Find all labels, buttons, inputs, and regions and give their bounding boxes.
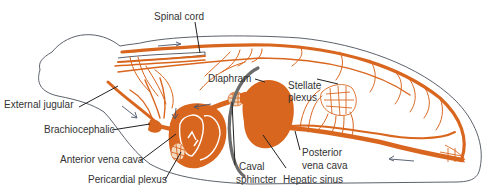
- vessel-branch: [160, 78, 165, 118]
- arrow-right-icon: [158, 42, 181, 46]
- label-spinal-cord: Spinal cord: [154, 11, 204, 22]
- leader-posterior-vena-cava: [295, 131, 300, 150]
- vessel-branch: [252, 49, 262, 62]
- vessel-branch: [155, 70, 173, 108]
- jugular-vessels: [108, 78, 176, 133]
- vessel-branch: [342, 116, 344, 134]
- hepatic-sinus-body: [243, 80, 294, 148]
- label-stellate-plexus-line1: Stellate: [288, 80, 322, 91]
- hepatic-sinus: [240, 80, 294, 148]
- label-stellate-plexus-line2: plexus: [288, 92, 317, 103]
- vessel-branch: [130, 57, 150, 92]
- label-caval-sphincter-line2: sphincter: [236, 174, 277, 185]
- vessel-branch: [146, 66, 166, 104]
- label-pericardial-plexus: Pericardial plexus: [88, 174, 167, 185]
- label-anterior-vena-cava: Anterior vena cava: [60, 154, 144, 165]
- label-posterior-vena-cava-line1: Posterior: [302, 147, 343, 158]
- vessel-branch: [410, 80, 415, 112]
- leader-spinal-cord: [195, 22, 200, 53]
- label-hepatic-sinus: Hepatic sinus: [283, 174, 343, 185]
- label-diaphram: Diaphram: [208, 73, 251, 84]
- brachiocephalic-junction: [148, 119, 162, 132]
- label-posterior-vena-cava-line2: vena cava: [302, 160, 348, 171]
- label-brachiocephalic: Brachiocephalic: [44, 124, 115, 135]
- arrow-left-icon: [389, 156, 414, 161]
- vessel-branch: [332, 116, 336, 132]
- label-caval-sphincter-line1: Caval: [239, 161, 265, 172]
- anatomy-diagram: Spinal cord Diaphram Stellate plexus Ext…: [0, 0, 495, 195]
- vessel-branch: [350, 112, 353, 136]
- vessel-branch: [436, 98, 443, 130]
- leader-external-jugular: [79, 86, 118, 107]
- leader-brachiocephalic: [112, 124, 150, 130]
- label-external-jugular: External jugular: [4, 99, 74, 110]
- vessel-branch: [424, 88, 429, 118]
- arrow-down-right-icon: [122, 106, 137, 118]
- vessel-branch: [292, 46, 302, 66]
